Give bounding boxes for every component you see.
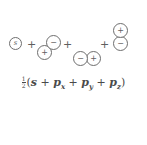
px-orbital-lobe-minus: − [46,35,61,50]
formula-term-px-subscript: x [61,82,65,91]
formula-plus-1: + [41,76,50,89]
s-orbital-lobe: s [9,37,22,50]
pz-orbital-lobe-minus: − [113,36,128,51]
py-orbital-lobe-minus: − [73,51,88,66]
orbital-diagram-canvas: s + − + + − + + + − 1 2 (s + px + py + p [0,0,147,145]
plus-operator-3: + [100,39,109,50]
fraction-denominator: 2 [22,82,26,89]
coefficient-fraction: 1 2 [22,76,26,90]
py-orbital-lobe-plus: + [86,51,101,66]
py-orbital-term: − + [73,42,103,60]
pz-orbital-lobe-plus: + [113,23,128,38]
formula-term-py: p [81,76,89,89]
formula-term-py-subscript: y [89,82,93,91]
orbital-equation-row: s + − + + − + + + − [0,18,147,68]
formula-term-px: p [53,76,61,89]
formula-term-pz: p [109,76,117,89]
plus-operator-1: + [27,39,36,50]
hybrid-orbital-formula: 1 2 (s + px + py + pz) [0,76,147,91]
px-orbital-term: − + [37,28,63,60]
formula-term-s: s [31,76,37,89]
formula-plus-2: + [69,76,78,89]
close-paren: ) [121,76,125,89]
plus-operator-2: + [63,39,72,50]
pz-orbital-term: + − [113,20,133,60]
formula-plus-3: + [97,76,106,89]
